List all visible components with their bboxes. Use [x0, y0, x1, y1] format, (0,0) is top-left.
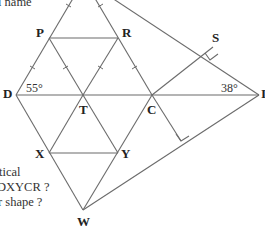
- text-fragment-line2: DXYCR ?: [0, 180, 50, 194]
- label-Y: Y: [121, 146, 131, 161]
- label-I: I: [261, 86, 265, 101]
- right-angle-marker-lower: [176, 134, 189, 141]
- text-fragment-line1: tical: [0, 165, 21, 179]
- text-fragment-top: l name: [0, 0, 32, 9]
- angle-label-D: 55°: [26, 81, 43, 95]
- label-R: R: [122, 25, 132, 40]
- label-S: S: [212, 30, 219, 45]
- angle-label-I: 38°: [221, 81, 238, 95]
- label-X: X: [35, 146, 45, 161]
- edge-C-apex: [93, 0, 152, 95]
- label-T: T: [79, 102, 88, 117]
- label-D: D: [3, 86, 12, 101]
- label-C: C: [147, 102, 156, 117]
- segment-RT: [83, 38, 118, 95]
- right-angle-marker-S: [205, 53, 218, 60]
- label-P: P: [36, 25, 44, 40]
- diagram-canvas: P R S D T C I X Y W 55° 38° l name tical…: [0, 0, 265, 227]
- segment-TX: [49, 95, 83, 153]
- segment-PT: [49, 38, 83, 95]
- label-W: W: [77, 214, 90, 227]
- text-fragment-line3: r shape ?: [0, 195, 43, 209]
- edge-D-apex: [16, 0, 75, 95]
- perpendicular-CS: [152, 47, 213, 95]
- geometry-diagram: P R S D T C I X Y W 55° 38° l name tical…: [0, 0, 265, 227]
- segment-TY: [83, 95, 118, 153]
